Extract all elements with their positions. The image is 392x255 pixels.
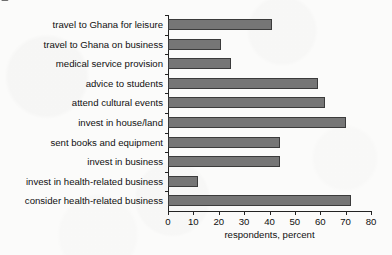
bar-row: sent books and equipment bbox=[168, 133, 371, 153]
y-axis-tick-label: attend cultural events bbox=[72, 94, 163, 111]
x-axis-tick-label: 50 bbox=[290, 216, 301, 227]
bar-chart: travel to Ghana for leisuretravel to Gha… bbox=[0, 0, 392, 255]
x-axis-tick-label: 40 bbox=[264, 216, 275, 227]
y-axis-tick bbox=[165, 54, 168, 55]
x-axis-tick bbox=[295, 211, 296, 215]
x-axis-tick-label: 20 bbox=[213, 216, 224, 227]
x-axis-tick-label: 30 bbox=[239, 216, 250, 227]
bar bbox=[168, 195, 351, 206]
bar bbox=[168, 78, 318, 89]
y-axis-tick-label: invest in health-related business bbox=[26, 173, 163, 190]
x-axis-tick bbox=[320, 211, 321, 215]
bar bbox=[168, 137, 280, 148]
plot-area: travel to Ghana for leisuretravel to Gha… bbox=[168, 15, 371, 211]
x-axis-tick-label: 80 bbox=[366, 216, 377, 227]
x-axis-tick bbox=[371, 211, 372, 215]
y-axis-tick bbox=[165, 191, 168, 192]
bar bbox=[168, 58, 231, 69]
y-axis-tick-label: consider health-related business bbox=[25, 192, 163, 209]
bar-row: consider health-related business bbox=[168, 191, 371, 211]
x-axis-tick-label: 0 bbox=[165, 216, 170, 227]
bar-row: invest in health-related business bbox=[168, 172, 371, 192]
y-axis-tick-label: medical service provision bbox=[56, 55, 163, 72]
y-axis-tick-label: advice to students bbox=[86, 75, 163, 92]
x-axis-tick bbox=[219, 211, 220, 215]
bar-row: travel to Ghana on business bbox=[168, 35, 371, 55]
y-axis-tick-label: invest in business bbox=[87, 153, 163, 170]
bar bbox=[168, 176, 198, 187]
x-axis-tick bbox=[168, 211, 169, 215]
bar bbox=[168, 117, 346, 128]
y-axis-tick bbox=[165, 172, 168, 173]
y-axis-tick bbox=[165, 15, 168, 16]
y-axis-tick bbox=[165, 113, 168, 114]
x-axis-tick-label: 70 bbox=[340, 216, 351, 227]
x-axis-tick bbox=[193, 211, 194, 215]
x-axis-tick bbox=[244, 211, 245, 215]
y-axis-tick-label: invest in house/land bbox=[78, 114, 163, 131]
bar bbox=[168, 39, 221, 50]
x-axis-tick-label: 60 bbox=[315, 216, 326, 227]
bar-row: medical service provision bbox=[168, 54, 371, 74]
bar bbox=[168, 19, 272, 30]
y-axis-tick bbox=[165, 93, 168, 94]
y-axis-tick bbox=[165, 35, 168, 36]
y-axis-tick bbox=[165, 152, 168, 153]
bar-row: invest in house/land bbox=[168, 113, 371, 133]
y-axis-tick-label: travel to Ghana on business bbox=[44, 36, 163, 53]
y-axis-tick bbox=[165, 74, 168, 75]
bar-row: travel to Ghana for leisure bbox=[168, 15, 371, 35]
y-axis-tick bbox=[165, 133, 168, 134]
x-axis-title: respondents, percent bbox=[168, 229, 371, 240]
bar-row: invest in business bbox=[168, 152, 371, 172]
x-axis-tick-label: 10 bbox=[188, 216, 199, 227]
bar-row: attend cultural events bbox=[168, 93, 371, 113]
x-axis-tick bbox=[346, 211, 347, 215]
bar bbox=[168, 156, 280, 167]
bar bbox=[168, 97, 325, 108]
bar-row: advice to students bbox=[168, 74, 371, 94]
x-axis-tick bbox=[270, 211, 271, 215]
y-axis-tick-label: travel to Ghana for leisure bbox=[53, 16, 163, 33]
y-axis-tick-label: sent books and equipment bbox=[50, 134, 163, 151]
